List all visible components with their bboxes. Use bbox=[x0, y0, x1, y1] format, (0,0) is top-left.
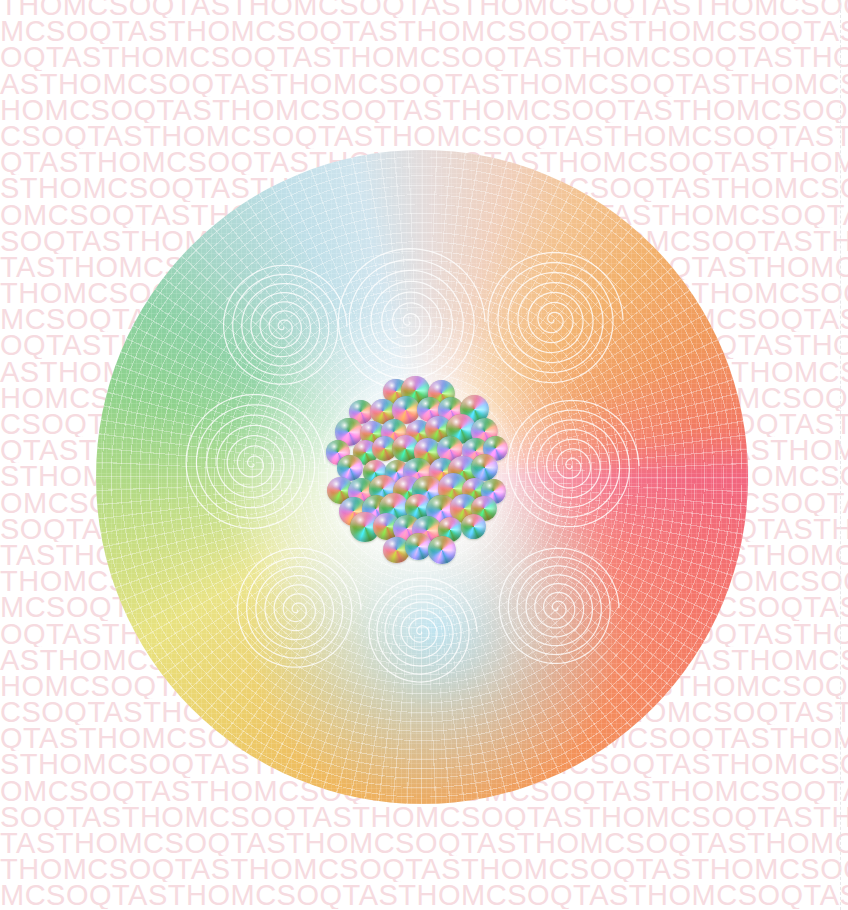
background-text-row: ASTHOMCSOQTASTHOMCSOQTASTHOMCSOQTASTHOMC… bbox=[0, 71, 848, 97]
artwork-canvas: THOMCSOQTASTHOMCSOQTASTHOMCSOQTASTHOMCSO… bbox=[0, 0, 848, 910]
background-text-row: MCSOQTASTHOMCSOQTASTHOMCSOQTASTHOMCSOQTA… bbox=[0, 18, 848, 44]
bead bbox=[461, 514, 486, 539]
bead bbox=[428, 536, 455, 563]
background-text-row: MCSOQTASTHOMCSOQTASTHOMCSOQTASTHOMCSOQTA… bbox=[0, 882, 848, 908]
background-text-row: OQTASTHOMCSOQTASTHOMCSOQTASTHOMCSOQTASTH… bbox=[0, 44, 848, 70]
background-text-row: THOMCSOQTASTHOMCSOQTASTHOMCSOQTASTHOMCSO… bbox=[0, 0, 848, 18]
background-text-row: THOMCSOQTASTHOMCSOQTASTHOMCSOQTASTHOMCSO… bbox=[0, 856, 848, 882]
right-dashed-guide bbox=[840, 0, 841, 910]
iridescent-bead-cluster bbox=[317, 369, 520, 572]
